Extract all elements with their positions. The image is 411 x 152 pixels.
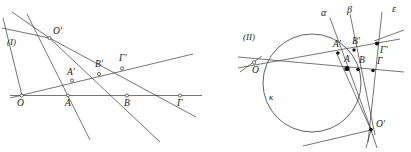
label-B-panel2: B — [359, 56, 365, 66]
label-beta: β — [347, 5, 352, 15]
label-kappa: κ — [269, 93, 273, 102]
label-Aprime-panel1: A' — [67, 68, 75, 78]
point-Gamma — [178, 94, 181, 97]
point-B-2 — [356, 68, 360, 72]
label-A-panel2: A — [344, 55, 350, 65]
line-alpha — [330, 18, 372, 132]
point-Bprime-2 — [352, 48, 355, 51]
point-A-2 — [344, 66, 349, 71]
label-Oprime-panel2: O' — [376, 120, 385, 130]
ray-Oprime-to-O — [3, 18, 22, 96]
point-Aprime-2 — [336, 51, 339, 54]
label-Bprime-panel2: B' — [352, 37, 360, 47]
ray-Oprime-to-A-long — [303, 130, 371, 146]
point-A — [67, 94, 70, 97]
ray-Oprime-to-Gamma — [50, 38, 197, 117]
label-Bprime-panel1: B' — [95, 60, 103, 70]
panel-1-lines — [2, 12, 202, 142]
ray-Oprime-tail-a — [371, 130, 377, 148]
panel-2-points — [336, 41, 379, 131]
point-O — [20, 94, 23, 97]
point-Aprime — [70, 79, 73, 82]
label-Gammaprime-panel1: Γ' — [119, 54, 126, 64]
point-Gammaprime — [120, 67, 123, 70]
label-O-panel1: O — [17, 99, 24, 109]
label-Oprime-panel1: O' — [53, 27, 62, 37]
point-Gammaprime-2 — [375, 41, 379, 45]
label-O-panel2: O — [252, 66, 259, 76]
point-Oprime-2 — [369, 128, 373, 132]
point-B — [125, 94, 128, 97]
point-O-2 — [252, 61, 255, 64]
panel-2-caption: (II) — [243, 33, 255, 42]
label-A-panel1: A — [65, 99, 71, 109]
label-Gamma-panel2: Γ — [377, 57, 382, 67]
ray-Oprime-to-B — [50, 38, 161, 142]
panel-1-caption: (I) — [7, 38, 16, 47]
label-epsilon: ε — [392, 4, 396, 14]
panel-2-open-points — [252, 61, 255, 64]
label-Gammaprime-panel2: Γ' — [380, 46, 387, 56]
point-Bprime — [97, 72, 100, 75]
point-Oprime — [48, 36, 51, 39]
point-Gamma-2 — [371, 69, 375, 73]
geometry-canvas — [0, 0, 411, 152]
geometry-figure-pair: (I) O' O A B Γ A' B' Γ' (II) α β ε κ O O… — [0, 0, 411, 152]
label-Gamma-panel1: Γ — [177, 99, 182, 109]
ray-Oprime-tail-b — [366, 130, 371, 148]
label-alpha: α — [321, 8, 326, 18]
line-beta — [350, 14, 375, 135]
label-B-panel1: B — [124, 99, 130, 109]
label-Aprime-panel2: A' — [333, 40, 341, 50]
